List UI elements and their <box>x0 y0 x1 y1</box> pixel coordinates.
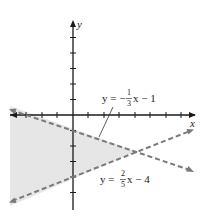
y-axis-arrow-icon <box>70 20 76 27</box>
eq2-label: y = 2 5 x − 4 <box>100 169 150 189</box>
eq2-numerator: 2 <box>121 169 125 178</box>
inequality-graph: y x y = − 1 3 x − 1 y = 2 5 x − 4 <box>0 0 202 224</box>
y-axis-label: y <box>76 18 82 30</box>
eq1-label: y = − 1 3 x − 1 <box>102 88 156 108</box>
eq1-leader-line <box>99 107 113 137</box>
eq1-suffix: x − 1 <box>133 92 156 104</box>
x-axis-label: x <box>189 117 195 129</box>
line-eq1-arrow-right-icon <box>186 166 194 172</box>
eq2-denominator: 5 <box>121 180 125 189</box>
eq1-denominator: 3 <box>127 99 131 108</box>
eq1-prefix: y = − <box>102 92 125 104</box>
eq2-prefix: y = <box>100 173 114 185</box>
line-eq2-arrow-right-icon <box>187 129 195 135</box>
eq1-numerator: 1 <box>127 88 131 97</box>
eq2-suffix: x − 4 <box>127 173 150 185</box>
